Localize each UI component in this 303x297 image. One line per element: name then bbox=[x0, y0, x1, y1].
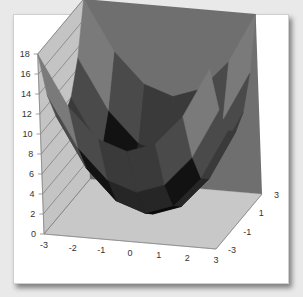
depth-tick-label: -3 bbox=[228, 245, 236, 255]
depth-tick-label: 1 bbox=[259, 208, 264, 218]
x-tick-label: -3 bbox=[40, 240, 48, 250]
x-tick-label: 1 bbox=[156, 250, 161, 260]
surface-chart: 024681012141618 -3-2-10123 -3-113 bbox=[0, 0, 303, 297]
x-tick-label: 3 bbox=[213, 255, 218, 265]
z-tick-label: 0 bbox=[31, 229, 36, 239]
z-tick-label: 6 bbox=[29, 169, 34, 179]
x-tick-label: 0 bbox=[127, 248, 132, 258]
z-tick-label: 10 bbox=[22, 129, 32, 139]
z-tick-label: 2 bbox=[30, 209, 35, 219]
z-tick-label: 12 bbox=[22, 109, 32, 119]
depth-tick-label: 3 bbox=[274, 190, 279, 200]
z-tick-label: 4 bbox=[30, 189, 35, 199]
depth-tick-label: -1 bbox=[243, 227, 251, 237]
x-tick-label: -1 bbox=[97, 245, 105, 255]
z-tick-label: 18 bbox=[20, 49, 30, 59]
z-tick-label: 8 bbox=[28, 149, 33, 159]
x-tick-label: 2 bbox=[185, 253, 190, 263]
z-tick-label: 16 bbox=[20, 69, 30, 79]
x-tick-label: -2 bbox=[69, 243, 77, 253]
z-tick-label: 14 bbox=[21, 89, 31, 99]
